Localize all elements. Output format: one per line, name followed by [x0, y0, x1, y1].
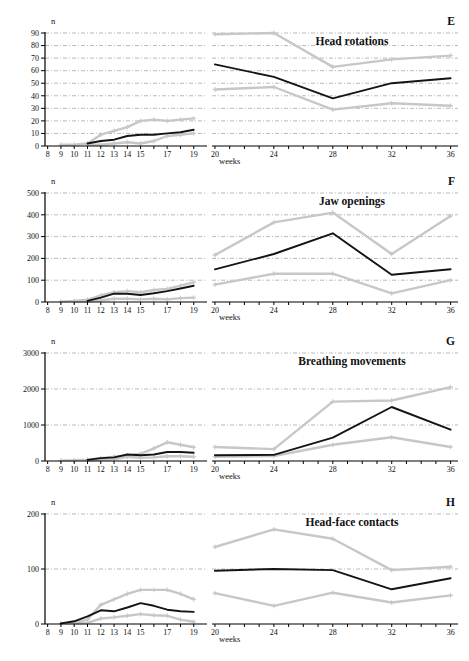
x-axis-weeks-label: weeks	[219, 635, 240, 644]
svg-text:60: 60	[31, 66, 39, 75]
svg-text:100: 100	[27, 565, 39, 574]
svg-text:13: 13	[110, 465, 118, 474]
svg-text:70: 70	[31, 54, 39, 63]
svg-text:2000: 2000	[23, 385, 39, 394]
head-rotations-chart: 0102030405060708090891011121314151719202…	[0, 0, 469, 165]
panel-letter: H	[446, 496, 455, 508]
svg-text:36: 36	[447, 150, 455, 159]
svg-text:10: 10	[70, 306, 78, 315]
svg-text:20: 20	[211, 150, 219, 159]
svg-text:32: 32	[388, 306, 396, 315]
svg-text:11: 11	[84, 306, 92, 315]
svg-text:0: 0	[35, 457, 39, 466]
panel-head-rotations: 0102030405060708090891011121314151719202…	[0, 0, 469, 165]
svg-text:24: 24	[270, 306, 278, 315]
svg-text:8: 8	[46, 628, 50, 637]
svg-text:20: 20	[211, 465, 219, 474]
svg-text:9: 9	[59, 465, 63, 474]
panel-title: Jaw openings	[252, 195, 452, 207]
svg-text:14: 14	[123, 628, 131, 637]
svg-text:10: 10	[70, 150, 78, 159]
svg-text:13: 13	[110, 150, 118, 159]
y-axis-unit-label: n	[51, 177, 55, 186]
svg-text:24: 24	[270, 150, 278, 159]
svg-text:90: 90	[31, 29, 39, 38]
svg-text:36: 36	[447, 306, 455, 315]
svg-text:19: 19	[190, 465, 198, 474]
svg-text:14: 14	[123, 306, 131, 315]
svg-text:19: 19	[190, 628, 198, 637]
svg-text:15: 15	[137, 150, 145, 159]
x-axis-weeks-label: weeks	[219, 472, 240, 481]
svg-text:28: 28	[329, 306, 337, 315]
fetal-movements-figure: 0102030405060708090891011121314151719202…	[0, 0, 469, 661]
svg-text:12: 12	[97, 465, 105, 474]
svg-text:20: 20	[211, 306, 219, 315]
panel-letter: F	[448, 175, 455, 187]
svg-text:8: 8	[46, 150, 50, 159]
svg-text:400: 400	[27, 211, 39, 220]
svg-text:10: 10	[70, 465, 78, 474]
svg-text:28: 28	[329, 628, 337, 637]
panel-letter: G	[446, 335, 455, 347]
svg-text:28: 28	[329, 150, 337, 159]
svg-text:10: 10	[31, 129, 39, 138]
svg-text:9: 9	[59, 306, 63, 315]
jaw-openings-chart: 0100200300400500891011121314151719202428…	[0, 165, 469, 330]
svg-text:30: 30	[31, 104, 39, 113]
svg-text:17: 17	[163, 628, 171, 637]
svg-text:200: 200	[27, 510, 39, 519]
svg-text:12: 12	[97, 628, 105, 637]
svg-text:13: 13	[110, 306, 118, 315]
panel-breathing-movements: 0100020003000891011121314151719202428323…	[0, 330, 469, 495]
svg-text:100: 100	[27, 276, 39, 285]
svg-text:36: 36	[447, 628, 455, 637]
svg-text:32: 32	[388, 150, 396, 159]
svg-text:20: 20	[31, 117, 39, 126]
svg-text:15: 15	[137, 628, 145, 637]
svg-text:11: 11	[84, 628, 92, 637]
svg-text:1000: 1000	[23, 421, 39, 430]
svg-text:32: 32	[388, 465, 396, 474]
svg-text:12: 12	[97, 150, 105, 159]
svg-text:17: 17	[163, 465, 171, 474]
svg-text:9: 9	[59, 150, 63, 159]
svg-text:20: 20	[211, 628, 219, 637]
svg-text:3000: 3000	[23, 349, 39, 358]
svg-text:17: 17	[163, 306, 171, 315]
svg-text:15: 15	[137, 465, 145, 474]
svg-text:36: 36	[447, 465, 455, 474]
svg-text:0: 0	[35, 620, 39, 629]
svg-text:0: 0	[35, 142, 39, 151]
svg-text:50: 50	[31, 79, 39, 88]
svg-text:200: 200	[27, 254, 39, 263]
panel-head-face-contacts: 01002008910111213141517192024283236 H He…	[0, 495, 469, 661]
svg-text:13: 13	[110, 628, 118, 637]
svg-text:24: 24	[270, 628, 278, 637]
svg-text:14: 14	[123, 150, 131, 159]
svg-text:32: 32	[388, 628, 396, 637]
svg-text:11: 11	[84, 150, 92, 159]
svg-text:11: 11	[84, 465, 92, 474]
svg-text:8: 8	[46, 465, 50, 474]
svg-text:0: 0	[35, 298, 39, 307]
svg-text:17: 17	[163, 150, 171, 159]
svg-text:19: 19	[190, 150, 198, 159]
svg-text:12: 12	[97, 306, 105, 315]
svg-text:24: 24	[270, 465, 278, 474]
svg-text:80: 80	[31, 41, 39, 50]
svg-text:28: 28	[329, 465, 337, 474]
svg-text:40: 40	[31, 92, 39, 101]
y-axis-unit-label: n	[51, 337, 55, 346]
svg-text:10: 10	[70, 628, 78, 637]
y-axis-unit-label: n	[51, 498, 55, 507]
panel-title: Head rotations	[252, 35, 452, 47]
svg-text:8: 8	[46, 306, 50, 315]
svg-text:9: 9	[59, 628, 63, 637]
panel-title: Breathing movements	[252, 355, 452, 367]
svg-text:500: 500	[27, 189, 39, 198]
panel-jaw-openings: 0100200300400500891011121314151719202428…	[0, 165, 469, 330]
svg-text:14: 14	[123, 465, 131, 474]
svg-text:19: 19	[190, 306, 198, 315]
y-axis-unit-label: n	[51, 17, 55, 26]
